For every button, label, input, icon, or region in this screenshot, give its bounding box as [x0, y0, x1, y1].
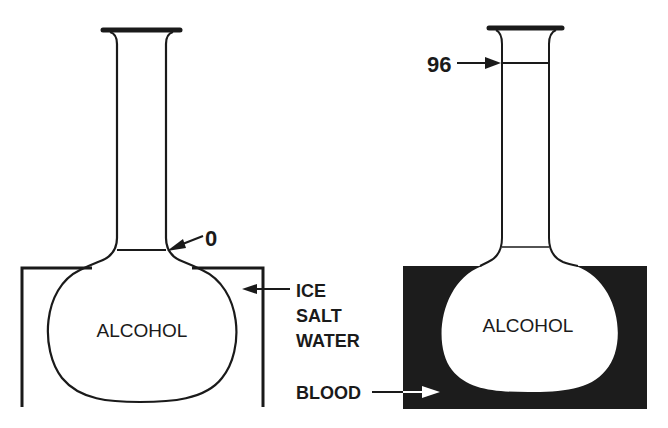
right-flask-outline: [480, 30, 578, 266]
right-panel: ALCOHOL 96 BLOOD: [296, 28, 647, 409]
bath-label-ice: ICE: [296, 281, 326, 301]
ninety-six-mark-label: 96: [427, 52, 451, 77]
blood-bath: [403, 266, 647, 409]
blood-label: BLOOD: [296, 383, 361, 403]
ninety-six-arrow-head: [485, 57, 501, 69]
left-panel: ALCOHOL 0 ICE SALT WATER: [22, 30, 360, 407]
left-flask-label: ALCOHOL: [97, 320, 188, 341]
bath-label-water: WATER: [296, 331, 360, 351]
left-flask-outline: [48, 32, 237, 402]
zero-mark-label: 0: [205, 226, 217, 251]
thermometer-flask-diagram: ALCOHOL 0 ICE SALT WATER ALCOHOL 96 BLOO…: [0, 0, 668, 428]
zero-arrow-head: [167, 239, 186, 251]
ice-arrow-head: [242, 284, 257, 294]
right-flask-label: ALCOHOL: [483, 315, 574, 336]
bath-label-salt: SALT: [296, 306, 342, 326]
